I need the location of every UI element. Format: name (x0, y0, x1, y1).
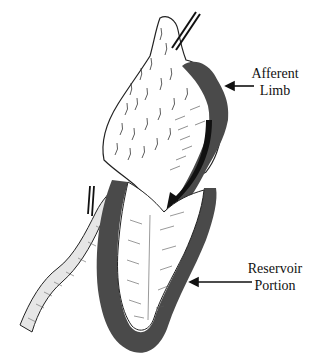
afferent-limb-label: Afferent Limb (240, 65, 310, 99)
pouch-illustration (0, 0, 310, 364)
reservoir-label-line1: Reservoir (240, 260, 310, 277)
afferent-label-line2: Limb (240, 82, 310, 99)
afferent-label-line1: Afferent (240, 65, 310, 82)
reservoir-portion-label: Reservoir Portion (240, 260, 310, 294)
reservoir-label-line2: Portion (240, 277, 310, 294)
